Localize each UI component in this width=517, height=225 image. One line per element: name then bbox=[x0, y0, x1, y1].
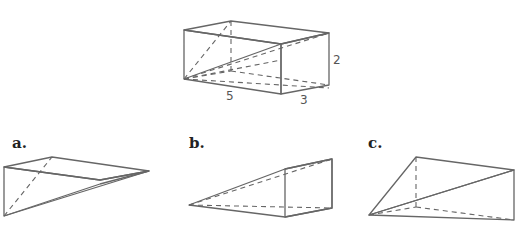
wedge-c-top-face bbox=[369, 157, 514, 215]
wedge-a-edge bbox=[100, 171, 149, 184]
diagram-canvas: 2 5 3 a. b. c. bbox=[0, 0, 517, 225]
hidden-cut-line bbox=[184, 60, 281, 79]
hidden-cut-line bbox=[184, 79, 329, 88]
hidden-edge bbox=[189, 159, 332, 205]
wedge-a-edge bbox=[4, 184, 100, 216]
hidden-edge bbox=[184, 71, 231, 79]
dim-length: 5 bbox=[226, 89, 234, 103]
option-a-figure bbox=[4, 157, 149, 216]
wedge-b-front-face bbox=[189, 159, 332, 217]
main-prism bbox=[184, 21, 329, 94]
option-c-figure bbox=[369, 157, 514, 220]
dim-height: 2 bbox=[333, 53, 341, 67]
wedge-c-right-face bbox=[369, 170, 514, 220]
dim-width: 3 bbox=[300, 93, 308, 107]
option-b-label: b. bbox=[189, 134, 205, 152]
option-a-label: a. bbox=[12, 134, 27, 152]
option-c-label: c. bbox=[368, 134, 382, 152]
prism-right-face bbox=[281, 33, 329, 94]
hidden-edge bbox=[231, 71, 329, 85]
option-b-figure bbox=[189, 159, 332, 217]
